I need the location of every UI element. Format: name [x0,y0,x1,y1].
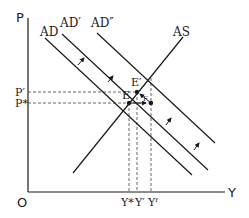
p-star-label: P* [15,97,28,110]
point-f [149,101,153,105]
y-star-label: Y* [120,196,134,209]
ad-prime-label: AD′ [59,16,81,30]
ad-double-prime-label: AD″ [90,16,114,30]
shift-arrow-icon [78,58,84,65]
shift-arrow-icon [166,118,171,125]
point-e [135,90,139,94]
origin-label: O [17,195,27,210]
ad-as-diagram: P Y O AD AD′ AD″ AS E′ E F P′ P* Y* Y′ Y… [0,0,249,218]
y-prime-label: Y′ [134,196,145,209]
as-curve [73,37,183,173]
ad-label: AD [39,25,58,39]
y-f-label: Yᶠ [147,196,158,209]
ad-curve [45,38,192,175]
f-label: F [143,95,148,103]
shift-arrow-icon [194,143,199,150]
ad-prime-curve [62,34,208,170]
x-axis-label: Y [227,185,236,200]
e-label: E [122,89,130,102]
e-prime-label: E′ [131,76,142,89]
ad-double-prime-curve [97,33,215,143]
y-axis-label: P [16,10,24,25]
as-label: AS [172,25,190,39]
